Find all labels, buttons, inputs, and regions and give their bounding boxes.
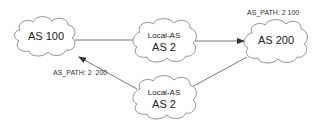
node-local-bottom-label: AS 2 <box>138 99 190 111</box>
node-local-bottom-sublabel: Local-AS <box>138 89 190 97</box>
as200-path-annotation: AS_PATH: 2 100 <box>247 9 299 16</box>
node-local-top-sublabel: Local-AS <box>138 32 190 40</box>
node-as200-label: AS 200 <box>250 35 302 47</box>
node-local-top-label: AS 2 <box>138 42 190 54</box>
as100-path-annotation: AS_PATH: 2 200 <box>53 69 107 76</box>
node-as100-label: AS 100 <box>22 31 70 43</box>
edge-local-bottom-to-as200 <box>190 57 247 88</box>
